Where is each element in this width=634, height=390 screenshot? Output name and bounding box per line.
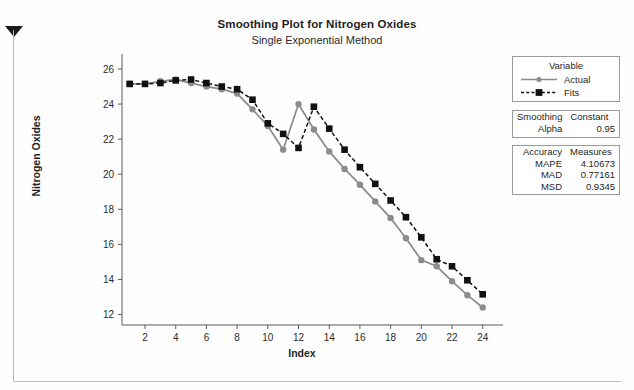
legend-title: Variable [513, 60, 619, 71]
svg-text:18: 18 [103, 204, 115, 215]
svg-text:14: 14 [324, 332, 336, 343]
accuracy-header-right: Measures [566, 146, 619, 158]
svg-text:8: 8 [234, 332, 240, 343]
legend-item-actual[interactable]: Actual [513, 73, 619, 86]
y-axis-title: Nitrogen Oxides [30, 96, 42, 216]
svg-text:26: 26 [103, 64, 115, 75]
accuracy-value-mad: 0.77161 [566, 169, 619, 181]
svg-text:2: 2 [142, 332, 148, 343]
smoothing-header-right: Constant [566, 111, 619, 123]
legend-swatch-actual-icon [519, 74, 559, 85]
legend-label-fits: Fits [559, 87, 579, 98]
accuracy-header-left: Accuracy [513, 146, 566, 158]
svg-text:12: 12 [103, 309, 115, 320]
svg-text:16: 16 [354, 332, 366, 343]
accuracy-row-mad: MAD 0.77161 [513, 169, 619, 181]
svg-text:14: 14 [103, 274, 115, 285]
svg-text:24: 24 [477, 332, 489, 343]
svg-text:20: 20 [103, 169, 115, 180]
x-axis-title: Index [122, 347, 482, 359]
accuracy-measures-box: Accuracy Measures MAPE 4.10673 MAD 0.771… [512, 145, 620, 195]
accuracy-value-mape: 4.10673 [566, 158, 619, 170]
axes-group: 121416182022242624681012141618202224 [103, 54, 503, 343]
svg-text:22: 22 [103, 134, 115, 145]
accuracy-row-mape: MAPE 4.10673 [513, 158, 619, 170]
accuracy-label-mape: MAPE [513, 158, 566, 170]
svg-text:16: 16 [103, 239, 115, 250]
legend-label-actual: Actual [559, 74, 590, 85]
series-group [126, 76, 486, 310]
svg-text:12: 12 [293, 332, 305, 343]
svg-text:24: 24 [103, 99, 115, 110]
accuracy-value-msd: 0.9345 [566, 181, 619, 193]
svg-text:18: 18 [385, 332, 397, 343]
accuracy-label-mad: MAD [513, 169, 566, 181]
accuracy-row-msd: MSD 0.9345 [513, 181, 619, 193]
chart-window: Smoothing Plot for Nitrogen Oxides Singl… [0, 0, 634, 390]
legend-item-fits[interactable]: Fits [513, 86, 619, 99]
svg-text:20: 20 [416, 332, 428, 343]
svg-text:10: 10 [262, 332, 274, 343]
smoothing-constant-box: Smoothing Constant Alpha 0.95 [512, 110, 620, 138]
legend-swatch-fits-icon [519, 87, 559, 98]
smoothing-alpha-value: 0.95 [566, 123, 619, 135]
svg-text:4: 4 [173, 332, 179, 343]
svg-text:6: 6 [204, 332, 210, 343]
accuracy-label-msd: MSD [513, 181, 566, 193]
legend-box: Variable Actual Fits [512, 56, 620, 102]
smoothing-alpha-label: Alpha [513, 123, 566, 135]
smoothing-header-left: Smoothing [513, 111, 566, 123]
svg-text:22: 22 [446, 332, 458, 343]
